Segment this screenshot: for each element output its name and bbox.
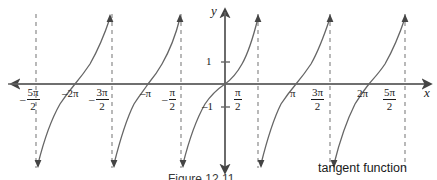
x-tick-label-5pi2: 5π 2 bbox=[383, 87, 396, 112]
x-tick-label-mpi2: – π 2 bbox=[162, 87, 176, 112]
x-tick-pi2-numerator: π bbox=[234, 87, 242, 98]
x-tick-m3pi2-sign: – bbox=[89, 94, 96, 105]
x-tick-label-2pi: 2π bbox=[357, 88, 368, 99]
x-tick-label-mpi: –π bbox=[140, 88, 151, 99]
x-tick-mpi2-numerator: π bbox=[169, 87, 177, 98]
x-tick-label-pi: π bbox=[290, 88, 296, 99]
x-tick-m5pi2-denominator: 2 bbox=[27, 101, 40, 112]
x-tick-3pi2-numerator: 3π bbox=[311, 87, 324, 98]
tangent-function-caption: tangent function bbox=[318, 162, 407, 175]
x-tick-5pi2-denominator: 2 bbox=[383, 101, 396, 112]
x-tick-m3pi2-denominator: 2 bbox=[96, 101, 109, 112]
tangent-branch-3 bbox=[183, 18, 258, 164]
y-tick-label-neg1: –1 bbox=[202, 101, 213, 112]
x-tick-m5pi2-numerator: 5π bbox=[27, 87, 40, 98]
x-tick-label-m2pi: –2π bbox=[62, 88, 79, 99]
x-tick-m3pi2-numerator: 3π bbox=[96, 87, 109, 98]
y-tick-label-1: 1 bbox=[206, 56, 212, 67]
x-tick-m5pi2-sign: – bbox=[20, 94, 27, 105]
x-tick-pi2-denominator: 2 bbox=[234, 101, 242, 112]
x-axis-label: x bbox=[424, 86, 430, 99]
x-tick-3pi2-denominator: 2 bbox=[311, 101, 324, 112]
x-tick-label-3pi2: 3π 2 bbox=[311, 87, 324, 112]
x-tick-label-m3pi2: – 3π 2 bbox=[89, 87, 109, 112]
x-tick-label-m5pi2: – 5π 2 bbox=[20, 87, 40, 112]
figure-number-caption: Figure 12.11 bbox=[168, 173, 235, 180]
x-tick-5pi2-numerator: 5π bbox=[383, 87, 396, 98]
x-tick-mpi2-denominator: 2 bbox=[169, 101, 177, 112]
x-tick-mpi2-sign: – bbox=[162, 94, 169, 105]
tangent-function-figure: y x 1 –1 – 5π 2 –2π – 3π 2 –π – bbox=[0, 0, 437, 180]
x-tick-label-pi2: π 2 bbox=[234, 87, 242, 112]
y-axis-label: y bbox=[211, 4, 217, 17]
